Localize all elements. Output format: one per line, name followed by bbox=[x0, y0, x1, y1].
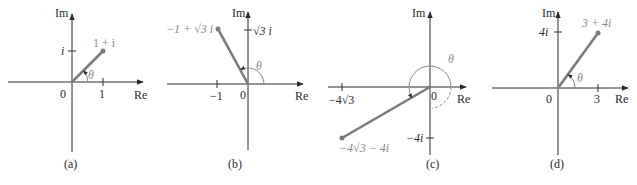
origin-label: 0 bbox=[431, 89, 437, 103]
x-tick-label: −1 bbox=[210, 89, 223, 103]
real-axis-label: Re bbox=[457, 92, 470, 106]
y-tick-label: 4i bbox=[539, 25, 548, 39]
point-label: 1 + i bbox=[93, 36, 116, 50]
real-axis-label: Re bbox=[134, 88, 147, 102]
real-axis-label: Re bbox=[615, 92, 628, 106]
panel-c: Im Re 0 −4√3 −4i −4√3 − 4i θ (c) bbox=[328, 6, 470, 171]
origin-label: 0 bbox=[60, 87, 66, 101]
point-label: −4√3 − 4i bbox=[339, 141, 389, 155]
point-label: −1 + √3 i bbox=[166, 22, 213, 36]
angle-label: θ bbox=[577, 71, 583, 85]
angle-label: θ bbox=[448, 52, 454, 66]
angle-label: θ bbox=[256, 59, 262, 73]
imag-axis-label: Im bbox=[55, 6, 69, 20]
imag-axis-label: Im bbox=[542, 6, 556, 20]
point-dot bbox=[216, 27, 221, 32]
point-label: 3 + 4i bbox=[581, 16, 611, 30]
angle-arc bbox=[568, 75, 575, 89]
caption: (d) bbox=[550, 157, 564, 171]
imag-axis-label: Im bbox=[412, 6, 426, 20]
panel-b: Im Re 0 −1 √3 i −1 + √3 i θ (b) bbox=[166, 6, 308, 171]
angle-arc-arrow bbox=[409, 87, 412, 98]
x-tick-label: −4√3 bbox=[329, 93, 354, 107]
panel-a: Im Re 0 1 i 1 + i θ (a) bbox=[8, 6, 147, 171]
origin-label: 0 bbox=[240, 88, 246, 102]
point-dot bbox=[596, 31, 601, 36]
y-tick-label: √3 i bbox=[253, 24, 272, 38]
caption: (b) bbox=[228, 157, 242, 171]
point-dot bbox=[340, 136, 345, 141]
caption: (c) bbox=[426, 157, 439, 171]
angle-label: θ bbox=[88, 68, 94, 82]
x-tick-label: 1 bbox=[99, 87, 105, 101]
origin-label: 0 bbox=[546, 92, 552, 106]
panel-d: Im Re 0 3 4i 3 + 4i θ (d) bbox=[492, 6, 628, 171]
y-tick-label: i bbox=[61, 44, 64, 58]
caption: (a) bbox=[64, 157, 77, 171]
imag-axis-label: Im bbox=[232, 6, 246, 20]
x-tick-label: 3 bbox=[594, 92, 600, 106]
y-tick-label: −4i bbox=[406, 131, 423, 145]
real-axis-label: Re bbox=[295, 89, 308, 103]
vector bbox=[218, 29, 248, 84]
complex-plane-figures: Im Re 0 1 i 1 + i θ (a) Im Re 0 −1 √3 i … bbox=[0, 0, 637, 185]
